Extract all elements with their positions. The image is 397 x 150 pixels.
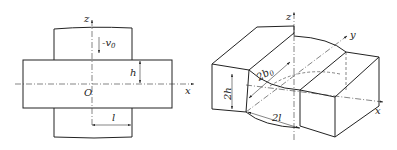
y-axis-label: y xyxy=(349,29,356,40)
x-axis-line xyxy=(246,85,383,102)
x-axis-label: x xyxy=(185,85,191,96)
x-axis-label: x xyxy=(375,105,381,116)
2b0-label: 2b0 xyxy=(254,64,277,85)
upper-die-outline xyxy=(54,27,132,60)
2b0-dimension-arrow xyxy=(249,62,290,98)
left-view: z x O -v0 h l xyxy=(15,13,194,138)
z-axis-label: z xyxy=(83,13,90,24)
2l-label: 2l xyxy=(271,112,282,123)
l-label: l xyxy=(112,112,115,123)
right-block-outline xyxy=(300,52,379,137)
hidden-arc xyxy=(270,72,340,86)
diagram-canvas: z x O -v0 h l z y x 2h 2b0 2l xyxy=(0,0,397,150)
origin-label: O xyxy=(84,87,92,98)
2h-label: 2h xyxy=(222,87,233,101)
h-label: h xyxy=(130,67,136,78)
z-axis-label: z xyxy=(285,11,292,22)
right-view: z y x 2h 2b0 2l xyxy=(212,11,383,140)
lower-die-outline xyxy=(54,108,132,138)
top-arc xyxy=(294,36,346,52)
velocity-label: -v0 xyxy=(102,37,116,50)
